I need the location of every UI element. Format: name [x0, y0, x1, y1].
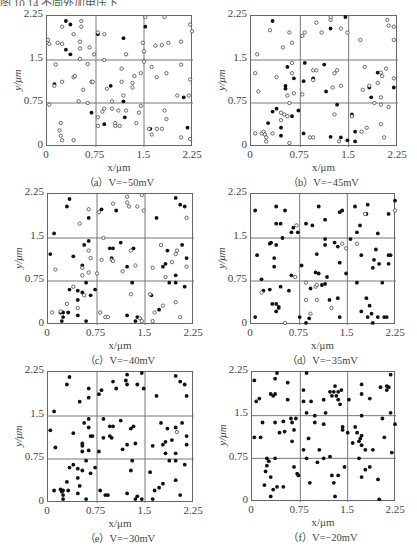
- filled-point: [183, 205, 187, 209]
- filled-point: [371, 321, 375, 325]
- filled-point: [76, 492, 80, 496]
- filled-point: [369, 95, 373, 99]
- filled-point: [316, 460, 320, 464]
- open-point: [54, 63, 57, 66]
- filled-point: [371, 266, 375, 270]
- filled-point: [182, 95, 186, 99]
- open-point: [148, 293, 151, 296]
- open-point: [175, 249, 178, 252]
- filled-point: [269, 495, 273, 499]
- filled-point: [332, 390, 336, 394]
- filled-point: [78, 484, 82, 488]
- filled-point: [84, 497, 88, 501]
- open-point: [382, 136, 385, 139]
- filled-point: [125, 265, 129, 269]
- filled-point: [290, 114, 294, 118]
- x-tick-label: 1.5: [332, 326, 362, 338]
- open-point: [155, 76, 158, 79]
- plot-area: [46, 15, 192, 146]
- filled-point: [161, 482, 165, 486]
- open-point: [315, 283, 318, 286]
- filled-point: [302, 79, 306, 83]
- filled-point: [174, 459, 178, 463]
- open-point: [154, 44, 157, 47]
- scatter-plot: [251, 16, 398, 147]
- x-tick-label: 2.25: [177, 148, 207, 160]
- filled-point: [376, 478, 380, 482]
- filled-point: [305, 371, 309, 375]
- filled-point: [308, 481, 312, 485]
- open-point: [124, 53, 127, 56]
- filled-point: [111, 246, 115, 250]
- filled-point: [111, 380, 115, 384]
- scatter-plot: [252, 372, 396, 502]
- open-point: [329, 15, 332, 18]
- filled-point: [323, 243, 327, 247]
- filled-point: [343, 465, 347, 469]
- filled-point: [87, 239, 91, 243]
- open-point: [185, 265, 188, 268]
- open-point: [379, 123, 382, 126]
- open-point: [133, 74, 136, 77]
- filled-point: [328, 390, 332, 394]
- filled-point: [275, 485, 279, 489]
- filled-point: [274, 302, 278, 306]
- filled-point: [371, 448, 375, 452]
- filled-point: [157, 486, 161, 490]
- x-tick-label: 0: [235, 148, 265, 160]
- filled-point: [292, 428, 296, 432]
- filled-point: [281, 236, 285, 240]
- open-point: [341, 242, 344, 245]
- open-point: [48, 42, 51, 45]
- filled-point: [305, 456, 309, 460]
- filled-point: [66, 311, 70, 315]
- filled-point: [302, 400, 306, 404]
- open-point: [363, 65, 366, 68]
- open-point: [121, 270, 124, 273]
- filled-point: [261, 421, 265, 425]
- filled-point: [155, 394, 159, 398]
- y-tick-label: 1.5: [217, 229, 247, 241]
- filled-point: [323, 237, 327, 241]
- filled-point: [65, 205, 69, 209]
- x-tick-label: 0.75: [284, 503, 314, 515]
- filled-point: [266, 121, 270, 125]
- filled-point: [292, 465, 296, 469]
- filled-point: [377, 497, 381, 501]
- filled-point: [346, 431, 350, 435]
- filled-point: [290, 230, 294, 234]
- filled-point: [360, 475, 364, 479]
- filled-point: [368, 304, 372, 308]
- filled-point: [254, 400, 258, 404]
- open-point: [365, 126, 368, 129]
- open-point: [106, 315, 109, 318]
- filled-point: [281, 485, 285, 489]
- filled-point: [65, 480, 69, 484]
- y-tick-label: 2.25: [13, 7, 43, 19]
- open-point: [110, 107, 113, 110]
- filled-point: [272, 256, 276, 260]
- filled-point: [183, 463, 187, 467]
- filled-point: [174, 426, 178, 430]
- filled-point: [268, 288, 272, 292]
- filled-point: [93, 466, 97, 470]
- open-point: [286, 115, 289, 118]
- filled-point: [174, 196, 178, 200]
- open-point: [165, 72, 168, 75]
- open-point: [386, 18, 389, 21]
- x-tick-label: 1.5: [129, 504, 159, 516]
- filled-point: [125, 383, 129, 387]
- y-axis-label: y/μm: [215, 241, 227, 275]
- filled-point: [65, 383, 69, 387]
- x-axis-label: x/μm: [47, 339, 193, 351]
- filled-point: [60, 319, 64, 323]
- open-point: [83, 294, 86, 297]
- filled-point: [87, 396, 91, 400]
- filled-point: [297, 474, 301, 478]
- open-point: [160, 43, 163, 46]
- open-point: [96, 124, 99, 127]
- open-point: [103, 58, 106, 61]
- filled-point: [290, 439, 294, 443]
- filled-point: [279, 126, 283, 130]
- filled-point: [357, 456, 361, 460]
